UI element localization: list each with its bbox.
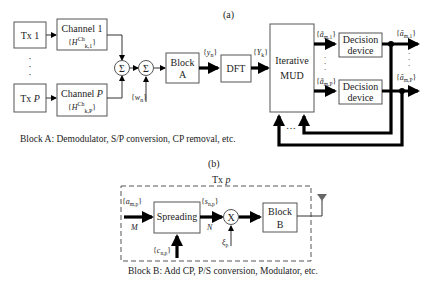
summation-node-1: Σ: [115, 61, 130, 76]
svg-text:Decision: Decision: [343, 81, 379, 92]
svg-text:Channel 1: Channel 1: [62, 23, 103, 34]
a-mp-label: {am,p}: [122, 197, 142, 207]
channel-1-block: Channel 1 {HChk,1}: [57, 19, 107, 50]
caption-block-A: Block A: Demodulator, S/P conversion, CP…: [20, 134, 236, 144]
svg-text:·: ·: [324, 65, 327, 74]
noise-label: {wn}: [131, 93, 147, 103]
svg-text:X: X: [227, 212, 235, 223]
svg-text:A: A: [179, 69, 187, 80]
svg-text:Σ: Σ: [143, 63, 149, 74]
tx1-block: Tx 1: [14, 22, 46, 48]
Y-k-label: {Yk}: [253, 48, 268, 58]
svg-text:Channel P: Channel P: [61, 88, 103, 99]
spreading-block: Spreading: [154, 202, 200, 233]
svg-text:DFT: DFT: [227, 63, 246, 74]
dft-block: DFT: [221, 55, 251, 82]
a-bar-P-label: {ām,P}: [396, 73, 417, 83]
svg-text:Iterative: Iterative: [275, 55, 309, 66]
svg-text:MUD: MUD: [280, 70, 303, 81]
block-B: Block B: [263, 203, 297, 232]
c-np-label: {cn,p}: [153, 246, 171, 256]
txP-block: Tx P: [14, 84, 46, 112]
svg-text:Tx P: Tx P: [20, 93, 40, 104]
line-ch1-sum: [107, 35, 122, 60]
svg-text:Tx 1: Tx 1: [21, 30, 40, 41]
svg-text:device: device: [347, 45, 374, 56]
svg-text:·: ·: [408, 61, 411, 70]
line-chP-sum: [107, 76, 122, 98]
tx-p-title: Tx p: [212, 174, 231, 185]
svg-text:Σ: Σ: [119, 63, 125, 74]
decision-device-P: Decision device: [339, 80, 382, 104]
s-np-label: {sn,p}: [201, 197, 219, 207]
svg-text:·: ·: [28, 69, 31, 80]
a-tilde-P-label: {ãm,P}: [316, 77, 337, 87]
channel-P-block: Channel P {HChk,P}: [57, 84, 107, 116]
svg-text:Block: Block: [268, 206, 292, 217]
summation-node-2: Σ: [139, 61, 154, 76]
M-label: M: [130, 223, 139, 232]
decision-device-1: Decision device: [339, 33, 382, 57]
y-n-label: {yn}: [203, 48, 217, 58]
iterative-mud-block: Iterative MUD: [270, 24, 314, 112]
antenna-icon: [317, 194, 327, 201]
panel-b-label: (b): [208, 158, 220, 170]
N-label: N: [206, 223, 213, 232]
antenna-feed: [297, 200, 322, 216]
a-bar-1-label: {ām,1}: [396, 29, 416, 39]
xi-p-label: ξp: [222, 238, 228, 248]
svg-text:B: B: [277, 219, 284, 230]
panel-a-label: (a): [223, 9, 234, 21]
feedback-ellipsis: …: [286, 120, 296, 131]
multiplier-node: X: [224, 210, 239, 225]
system-diagram: (a) Tx 1 · · · Channel 1 {HChk,1} Tx P C…: [0, 0, 436, 286]
a-tilde-1-label: {ãm,1}: [316, 30, 336, 40]
svg-text:Decision: Decision: [343, 34, 379, 45]
block-A: Block A: [166, 53, 199, 83]
svg-text:Spreading: Spreading: [157, 211, 198, 222]
svg-text:device: device: [347, 92, 374, 103]
svg-text:Block: Block: [171, 57, 195, 68]
caption-block-B: Block B: Add CP, P/S conversion, Modulat…: [128, 266, 318, 276]
